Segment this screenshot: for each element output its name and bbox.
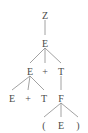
- node-e-left: E: [27, 66, 33, 77]
- node-plus-2: +: [25, 93, 31, 104]
- node-e-inner: E: [58, 120, 64, 131]
- node-t: T: [58, 66, 64, 77]
- edge-e2-e: [12, 76, 30, 90]
- node-plus: +: [42, 66, 48, 77]
- node-e-root: E: [42, 38, 48, 49]
- node-z: Z: [42, 10, 48, 21]
- edge-e-e: [30, 48, 45, 63]
- edge-e2-t: [30, 76, 44, 90]
- edge-f-lparen: [44, 103, 61, 117]
- parse-tree: Z E E + T E + T F ( E ): [0, 0, 88, 133]
- node-f: F: [58, 93, 64, 104]
- node-t-2: T: [41, 93, 47, 104]
- node-rparen: ): [76, 120, 79, 132]
- node-e-leaf: E: [9, 93, 15, 104]
- edge-e2-plus: [28, 76, 30, 90]
- edge-e-t: [45, 48, 61, 63]
- node-lparen: (: [42, 120, 46, 132]
- edge-f-rparen: [61, 103, 78, 117]
- nodes: Z E E + T E + T F ( E ): [9, 10, 80, 132]
